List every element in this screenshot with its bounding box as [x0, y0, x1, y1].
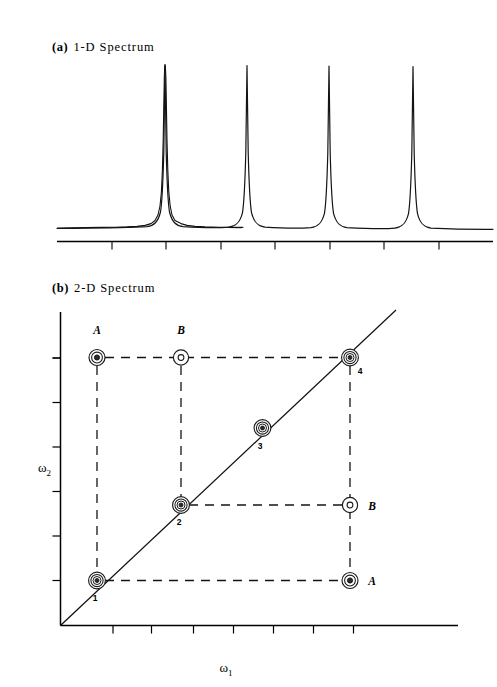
peak-diagonal-4-label: 4: [358, 366, 363, 376]
peak-cross-a-top-label: A: [92, 324, 101, 336]
peak-diagonal-4[interactable]: 4: [342, 349, 363, 376]
peak-diagonal-1[interactable]: 1: [89, 572, 106, 603]
peak-diagonal-2[interactable]: 2: [173, 497, 190, 527]
omega1-subscript: 1: [228, 668, 233, 678]
peak-cross-b-top-label: B: [176, 324, 185, 336]
spectrum-1d-chart: [55, 62, 497, 257]
peak-cross-a-top[interactable]: A: [89, 324, 105, 366]
x-axis-label: ω1: [219, 660, 232, 678]
peak-diagonal-1-label: 1: [93, 593, 98, 603]
spectrum-2d-chart: 1 2 3 4 A B B: [38, 300, 497, 687]
panel-b-tag: (b): [52, 281, 69, 295]
peak-cross-b-right[interactable]: B: [342, 497, 376, 512]
peak-diagonal-3-label: 3: [258, 441, 263, 451]
peak-cross-b-right-label: B: [367, 500, 376, 512]
spectrum-1d-curve-group: [57, 65, 493, 229]
peak-diagonal-2-label: 2: [177, 517, 182, 527]
svg-text:ω2: ω2: [38, 460, 51, 478]
spectrum-1d-trace: [57, 65, 243, 229]
peak-cross-b-top[interactable]: B: [173, 324, 188, 365]
panel-a-tag: (a): [52, 40, 68, 54]
spectrum-1d-ticks: [112, 242, 439, 250]
svg-text:ω1: ω1: [219, 660, 232, 678]
peak-cross-a-bottom-label: A: [367, 575, 376, 587]
y-axis-label: ω2: [38, 460, 51, 478]
panel-a-title: 1-D Spectrum: [68, 40, 154, 54]
connector-lines: [97, 358, 350, 581]
peak-cross-a-bottom[interactable]: A: [342, 573, 376, 589]
panel-b-title: 2-D Spectrum: [69, 281, 155, 295]
peak-diagonal-3[interactable]: 3: [254, 420, 271, 451]
figure-container: (a)1-D Spectrum (b)2-D Spectrum: [0, 0, 497, 687]
omega2-subscript: 2: [47, 468, 52, 478]
spectrum-1d-curve: [57, 65, 493, 229]
y-axis-ticks: [53, 358, 61, 581]
x-axis-ticks: [113, 626, 354, 634]
panel-a-label: (a)1-D Spectrum: [52, 40, 155, 55]
panel-b-label: (b)2-D Spectrum: [52, 281, 155, 296]
